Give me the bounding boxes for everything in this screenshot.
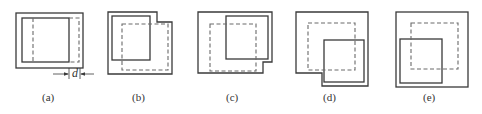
figure-canvas (0, 0, 482, 114)
panel-e-caption: (e) (423, 91, 435, 103)
panel-c-outer-outline (198, 12, 272, 73)
panel-b-caption: (b) (132, 91, 145, 103)
panel-b-diagram (108, 12, 172, 74)
panel-d-diagram (296, 12, 368, 86)
panel-a-arrowhead-right (80, 72, 85, 75)
panel-a-caption: (a) (42, 91, 54, 103)
panel-d-inner-rect (324, 40, 364, 82)
panel-a-dashed-right (69, 18, 79, 62)
panel-a-inner-rect (22, 18, 69, 62)
panel-c-diagram (198, 12, 272, 73)
panel-a-arrowhead-left (64, 72, 69, 75)
panel-d-dashed-rect (308, 23, 355, 70)
panel-a-diagram (16, 13, 94, 79)
panel-d-caption: (d) (323, 91, 336, 103)
panel-c-dashed-rect (210, 24, 256, 71)
panel-b-outer-outline (108, 12, 172, 74)
panel-a-outer-rect (16, 13, 83, 68)
panel-b-inner-rect (112, 16, 150, 60)
panel-e-diagram (396, 12, 468, 87)
panel-c-caption: (c) (226, 91, 238, 103)
panel-d-outer-outline (296, 12, 368, 86)
panel-c-inner-rect (226, 16, 268, 59)
panel-b-dashed-rect (122, 24, 168, 70)
panel-a-dimension-label: d (72, 66, 78, 81)
panel-e-dashed-rect (411, 23, 458, 69)
panel-e-inner-rect (400, 39, 442, 83)
